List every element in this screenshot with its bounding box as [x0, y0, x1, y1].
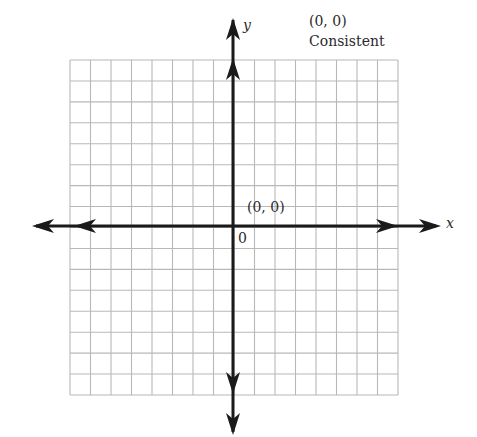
coordinate-plane: (0, 0) Consistent y x (0, 0) 0 — [0, 0, 477, 437]
coordinate-plane-svg — [0, 0, 477, 437]
annotation-point: (0, 0) — [309, 12, 347, 30]
origin-label: 0 — [238, 229, 247, 247]
intersection-point-label: (0, 0) — [247, 198, 285, 216]
y-axis-label: y — [243, 17, 251, 33]
x-axis-label: x — [446, 215, 454, 231]
annotation-classification: Consistent — [309, 32, 385, 50]
